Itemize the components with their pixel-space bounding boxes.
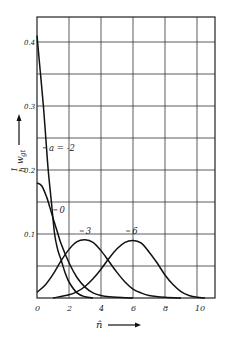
x-tick-label: 2: [66, 304, 72, 313]
x-tick-label: 6: [131, 304, 136, 313]
curve-label: 0: [59, 205, 65, 215]
x-tick-label: 10: [195, 304, 205, 313]
curve-a-2: [37, 36, 93, 298]
x-axis-label: n̂: [96, 319, 141, 330]
x-tick-label: 8: [163, 304, 168, 313]
svg-text:gt: gt: [19, 150, 27, 157]
curve-label: a = -2: [49, 143, 75, 153]
x-tick-label: 0: [35, 304, 40, 313]
curves: [37, 36, 205, 298]
curve-label: 3: [86, 226, 91, 236]
curve-a3: [37, 240, 181, 298]
x-axis-arrowhead-icon: [135, 323, 141, 328]
svg-text:ℏ: ℏ: [18, 167, 27, 172]
curve-labels: a = -2036: [43, 143, 138, 236]
y-tick-label: 0.4: [24, 39, 35, 47]
y-axis-arrowhead-icon: [17, 114, 22, 121]
svg-text:n̂: n̂: [96, 319, 102, 330]
y-tick-label: 0.3: [24, 103, 36, 111]
y-tick-label: 0.1: [24, 231, 35, 239]
curve-label: 6: [132, 226, 138, 236]
x-tick-label: 4: [98, 304, 104, 313]
y-tick-labels: 0.10.20.30.4: [24, 39, 36, 239]
line-chart: 0246810 0.10.20.30.4 a = -2036 n̂ 1 ℏ w …: [0, 0, 226, 341]
curve-a6: [53, 240, 205, 298]
y-axis-label: 1 ℏ w gt: [10, 150, 27, 172]
x-tick-labels: 0246810: [35, 304, 205, 313]
